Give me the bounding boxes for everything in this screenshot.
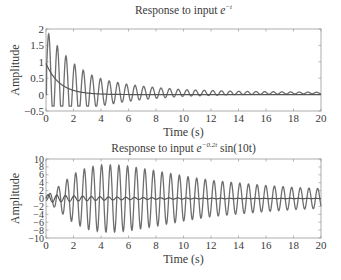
x-tick-label: 4 xyxy=(98,112,104,124)
x-tick-label: 12 xyxy=(206,112,217,124)
x-tick-label: 14 xyxy=(233,112,245,124)
x-tick-label: 4 xyxy=(98,239,104,251)
x-tick-label: 16 xyxy=(261,112,273,124)
chart-title: Response to input e−0.2t sin(10t) xyxy=(111,141,256,155)
x-tick-label: 12 xyxy=(206,239,217,251)
y-tick-label: 10 xyxy=(34,154,44,165)
x-tick-label: 16 xyxy=(261,239,273,251)
plot-frame xyxy=(46,29,321,111)
x-tick-label: 14 xyxy=(233,239,245,251)
output-response-line xyxy=(46,34,321,106)
y-axis-label: Amplitude xyxy=(8,44,22,95)
input-signal-line xyxy=(46,63,321,94)
chart-title: Response to input e−t xyxy=(135,3,233,17)
y-tick-label: 2 xyxy=(39,23,45,35)
y-axis-label: Amplitude xyxy=(8,173,22,224)
x-axis-label: Time (s) xyxy=(163,252,204,266)
y-tick-label: −0.5 xyxy=(24,105,44,117)
x-tick-label: 0 xyxy=(43,112,49,124)
y-tick-label: 1.5 xyxy=(30,39,44,51)
y-tick-label: 0 xyxy=(39,89,45,101)
x-tick-label: 8 xyxy=(153,239,159,251)
x-tick-label: 2 xyxy=(71,112,77,124)
x-tick-label: 10 xyxy=(178,112,190,124)
x-tick-label: 18 xyxy=(288,112,300,124)
x-tick-label: 0 xyxy=(43,239,49,251)
subplot-1: 02468101214161820−0.500.511.52Response t… xyxy=(8,3,327,139)
x-tick-label: 6 xyxy=(126,112,132,124)
x-tick-label: 2 xyxy=(71,239,77,251)
x-tick-label: 8 xyxy=(153,112,159,124)
y-tick-label: 0.5 xyxy=(30,72,44,84)
x-tick-label: 18 xyxy=(288,239,300,251)
figure: 02468101214161820−0.500.511.52Response t… xyxy=(0,0,341,280)
y-tick-label: 1 xyxy=(39,56,45,68)
x-tick-label: 20 xyxy=(316,239,328,251)
x-tick-label: 10 xyxy=(178,239,190,251)
x-axis-label: Time (s) xyxy=(163,125,204,139)
input-signal-line xyxy=(46,195,321,202)
subplot-2: 02468101214161820−10−8−6−4−20246810Respo… xyxy=(8,141,327,266)
x-tick-label: 6 xyxy=(126,239,132,251)
x-tick-label: 20 xyxy=(316,112,328,124)
